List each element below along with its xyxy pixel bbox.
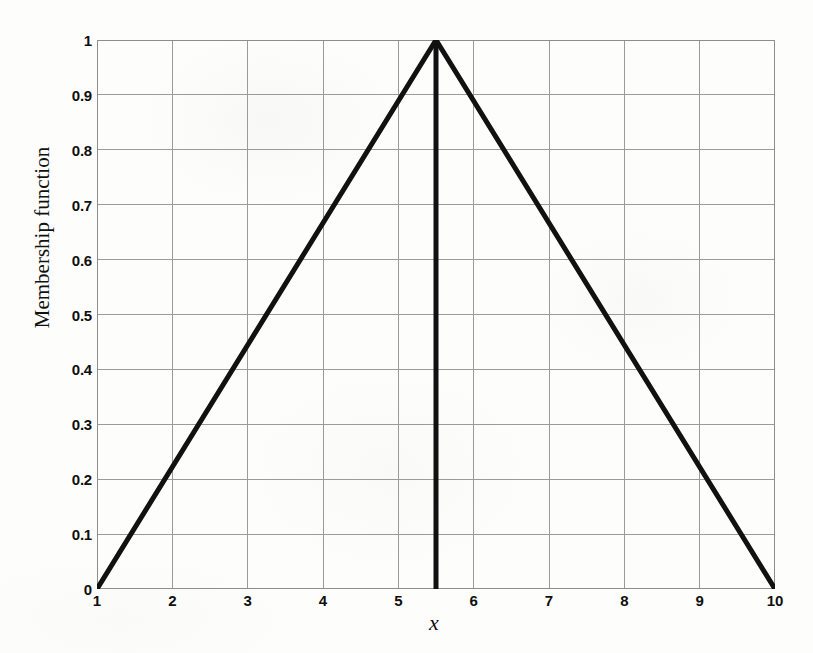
y-tick-label: 0.4 <box>40 361 92 378</box>
x-tick-label: 3 <box>244 592 252 609</box>
y-tick-label: 0.3 <box>40 416 92 433</box>
y-tick-label: 0.9 <box>40 86 92 103</box>
x-tick-label: 6 <box>470 592 478 609</box>
x-tick-label: 8 <box>620 592 628 609</box>
chart-page: 0 0.1 0.2 0.3 0.4 0.5 0.6 0.7 0.8 0.9 1 … <box>0 0 813 653</box>
x-tick-label: 10 <box>767 592 784 609</box>
y-axis-title: Membership function <box>30 118 55 358</box>
x-tick-label: 2 <box>168 592 176 609</box>
x-tick-label: 5 <box>394 592 402 609</box>
y-tick-label: 0.1 <box>40 526 92 543</box>
y-tick-label: 0.2 <box>40 471 92 488</box>
x-axis-title: x <box>404 610 464 636</box>
x-tick-label: 1 <box>93 592 101 609</box>
x-tick-label: 9 <box>696 592 704 609</box>
plot-area <box>97 40 775 589</box>
x-tick-label: 4 <box>319 592 327 609</box>
x-tick-label: 7 <box>545 592 553 609</box>
y-tick-label: 0 <box>40 581 92 598</box>
chart-canvas <box>97 40 775 589</box>
y-tick-label: 1 <box>40 32 92 49</box>
